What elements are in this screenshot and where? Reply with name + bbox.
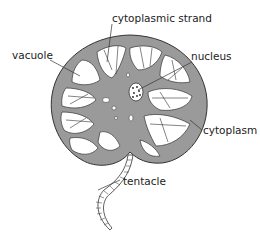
cell-diagram [0,0,260,242]
label-nucleus: nucleus [191,51,232,62]
label-tentacle: tentacle [123,176,166,187]
tentacle [96,155,133,230]
nucleus [129,83,143,101]
label-cytoplasm: cytoplasm [203,125,257,136]
label-cytoplasmic-strand: cytoplasmic strand [112,13,212,24]
label-vacuole: vacuole [12,50,53,61]
